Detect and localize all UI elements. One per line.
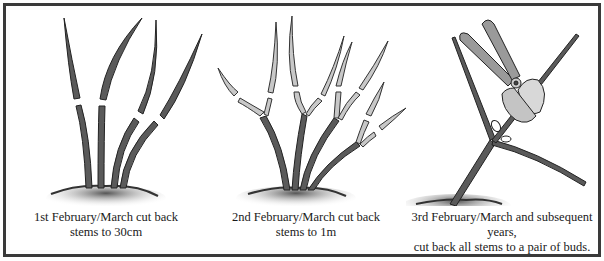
panel-step-3: 3rd February/March and subsequent years,… <box>406 6 598 254</box>
caption-step-2: 2nd February/March cut back stems to 1m <box>206 210 406 240</box>
secateurs-icon <box>460 20 545 122</box>
caption-step-3-line-2: cut back all stems to a pair of buds. <box>406 240 598 255</box>
panel-step-2: 2nd February/March cut back stems to 1m <box>206 6 406 254</box>
panel-step-1: 1st February/March cut back stems to 30c… <box>6 6 206 254</box>
bud-icon <box>501 136 511 142</box>
caption-step-2-line-2: stems to 1m <box>206 225 406 240</box>
caption-step-3: 3rd February/March and subsequent years,… <box>406 210 598 255</box>
caption-step-1-line-2: stems to 30cm <box>6 225 206 240</box>
plant-stems-illustration-1 <box>6 6 206 206</box>
caption-step-2-line-1: 2nd February/March cut back <box>206 210 406 225</box>
caption-step-1: 1st February/March cut back stems to 30c… <box>6 210 206 240</box>
plant-stems-illustration-2 <box>206 6 406 206</box>
caption-step-3-line-1: 3rd February/March and subsequent years, <box>406 210 598 240</box>
secateurs-pruning-illustration <box>406 6 598 206</box>
caption-step-1-line-1: 1st February/March cut back <box>6 210 206 225</box>
diagram-frame: 1st February/March cut back stems to 30c… <box>3 3 601 257</box>
